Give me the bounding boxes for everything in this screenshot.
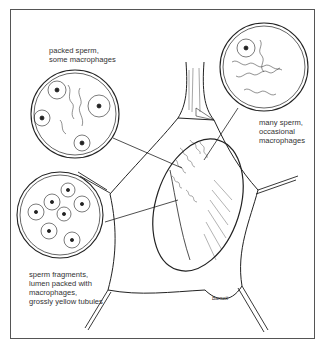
callout-top-left: packed sperm, some macrophages: [49, 46, 116, 64]
circle-bottom-left: [17, 172, 103, 258]
circle-top-right: [220, 23, 308, 111]
artist-signature: Barnett: [212, 294, 228, 303]
circle-top-left: [31, 70, 119, 158]
callout-bottom-left: sperm fragments, lumen packed with macro…: [29, 270, 103, 306]
tunica-sac: [108, 108, 258, 299]
callout-top-right: many sperm, occasional macrophages: [259, 118, 305, 145]
retractors: [78, 172, 298, 332]
